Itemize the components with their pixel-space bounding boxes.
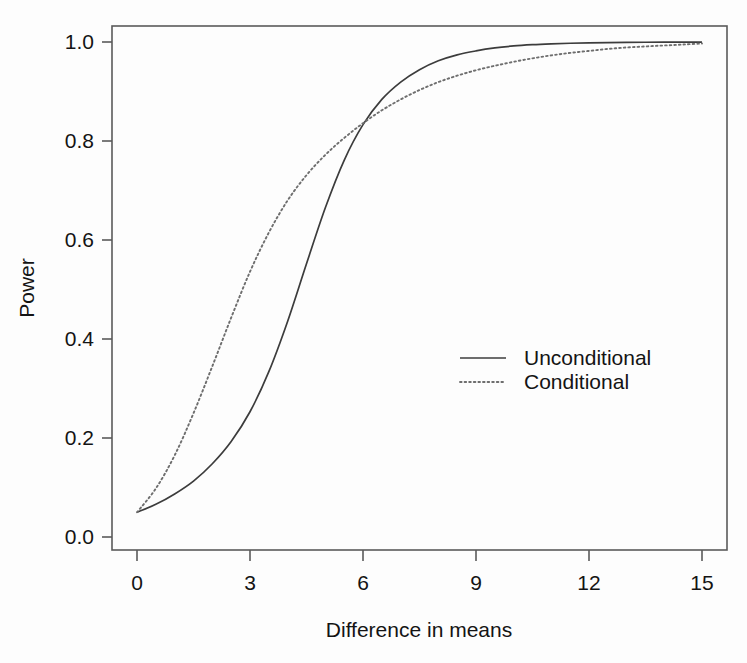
x-tick-label: 3 (244, 571, 256, 594)
data-series-group (137, 42, 702, 512)
x-tick-label: 6 (357, 571, 369, 594)
x-axis-title: Difference in means (326, 618, 512, 641)
legend-label-conditional: Conditional (524, 370, 629, 393)
y-tick-label: 0.8 (65, 129, 94, 152)
chart-legend: UnconditionalConditional (460, 346, 651, 393)
chart-canvas: 0.00.20.40.60.81.0 03691215 Difference i… (0, 0, 747, 663)
series-line-unconditional (137, 42, 702, 512)
x-tick-label: 0 (131, 571, 143, 594)
y-tick-label: 0.6 (65, 228, 94, 251)
x-tick-label: 15 (690, 571, 713, 594)
x-tick-label: 12 (577, 571, 600, 594)
legend-label-unconditional: Unconditional (524, 346, 651, 369)
y-tick-label: 0.0 (65, 525, 94, 548)
y-axis: 0.00.20.40.60.81.0 (65, 30, 112, 548)
y-axis-title: Power (15, 258, 38, 318)
y-tick-label: 0.2 (65, 426, 94, 449)
y-tick-label: 1.0 (65, 30, 94, 53)
x-tick-label: 9 (470, 571, 482, 594)
series-line-conditional (137, 43, 702, 512)
power-curve-figure: 0.00.20.40.60.81.0 03691215 Difference i… (0, 0, 747, 663)
x-axis: 03691215 (131, 550, 714, 594)
y-tick-label: 0.4 (65, 327, 95, 350)
